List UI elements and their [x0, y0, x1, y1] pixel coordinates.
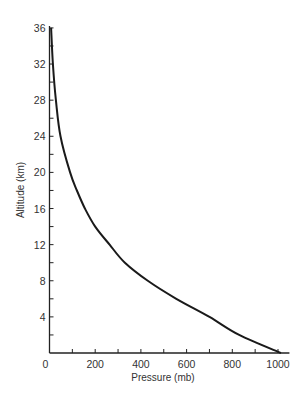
y-tick-label: 8	[40, 275, 46, 287]
x-tick-label: 200	[86, 358, 104, 370]
tick-labels: 020040060080010004812162024283236	[34, 22, 290, 370]
x-tick-label: 1000	[266, 358, 290, 370]
x-tick-label: 800	[224, 358, 242, 370]
y-tick-label: 32	[34, 58, 46, 70]
y-tick-label: 28	[34, 94, 46, 106]
y-tick-label: 4	[40, 311, 46, 323]
y-tick-label: 16	[34, 203, 46, 215]
y-tick-label: 12	[34, 239, 46, 251]
pressure-curve	[51, 28, 281, 353]
axes	[50, 26, 290, 353]
y-axis-title: Altitude (km)	[15, 162, 26, 218]
y-tick-label: 20	[34, 166, 46, 178]
x-tick-label: 400	[132, 358, 150, 370]
y-tick-label: 36	[34, 22, 46, 34]
pressure-altitude-chart: 020040060080010004812162024283236 Pressu…	[0, 0, 304, 401]
x-tick-label: 600	[178, 358, 196, 370]
ticks	[50, 28, 279, 353]
y-tick-label: 24	[34, 130, 46, 142]
x-tick-label: 0	[43, 358, 49, 370]
x-axis-title: Pressure (mb)	[131, 372, 194, 383]
